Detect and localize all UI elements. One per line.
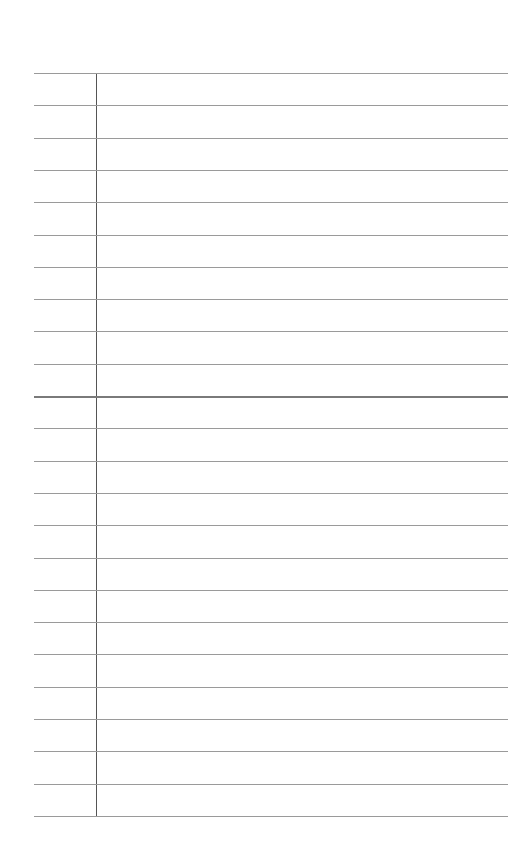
- ruled-line: [34, 493, 508, 494]
- ruled-line: [34, 202, 508, 203]
- margin-line: [96, 73, 97, 816]
- ruled-line: [34, 105, 508, 106]
- ruled-line: [34, 299, 508, 300]
- ruled-line: [34, 816, 508, 817]
- ruled-line: [34, 622, 508, 623]
- ruled-line: [34, 396, 508, 398]
- ruled-line: [34, 331, 508, 332]
- ruled-line: [34, 267, 508, 268]
- ruled-line: [34, 558, 508, 559]
- ruled-line: [34, 525, 508, 526]
- lined-paper-sheet: [0, 0, 517, 862]
- ruled-line: [34, 719, 508, 720]
- ruled-line: [34, 461, 508, 462]
- ruled-line: [34, 751, 508, 752]
- ruled-line: [34, 428, 508, 429]
- ruled-line: [34, 654, 508, 655]
- ruled-line: [34, 590, 508, 591]
- ruled-line: [34, 235, 508, 236]
- ruled-line: [34, 170, 508, 171]
- ruled-line: [34, 73, 508, 74]
- ruled-line: [34, 687, 508, 688]
- ruled-line: [34, 364, 508, 365]
- ruled-line: [34, 784, 508, 785]
- ruled-line: [34, 138, 508, 139]
